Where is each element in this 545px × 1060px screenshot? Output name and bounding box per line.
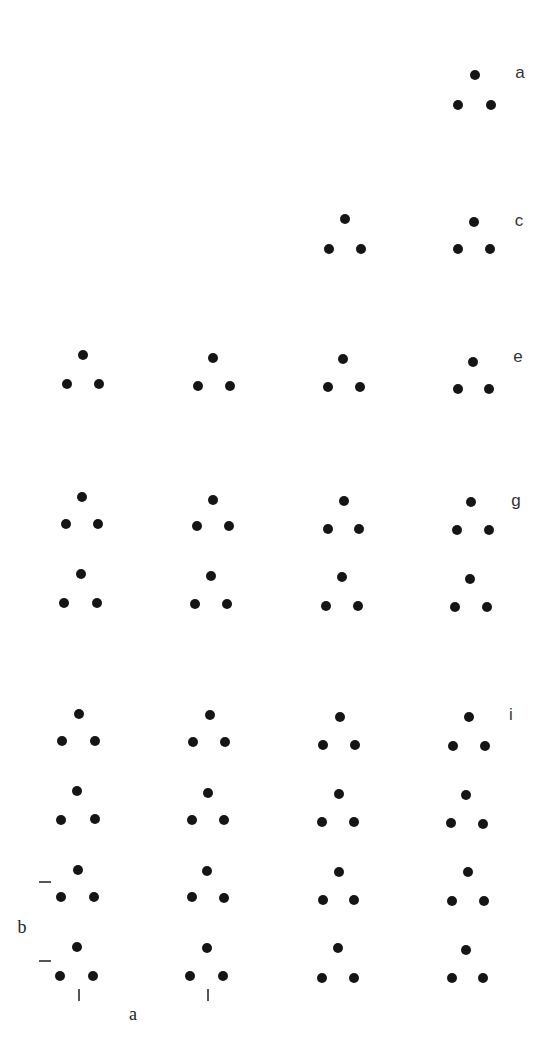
dot-marker: [337, 572, 347, 582]
dot-marker: [205, 710, 215, 720]
dot-marker: [465, 574, 475, 584]
dot-marker: [203, 788, 213, 798]
dot-marker: [187, 815, 197, 825]
dot-marker: [463, 867, 473, 877]
axis-label-b: b: [18, 918, 27, 936]
dot-marker: [354, 524, 364, 534]
vertical-tick-mark: [207, 989, 209, 1001]
dot-marker: [447, 973, 457, 983]
dot-marker: [355, 382, 365, 392]
dot-marker: [482, 602, 492, 612]
dot-marker: [323, 524, 333, 534]
dot-marker: [59, 598, 69, 608]
dot-marker: [335, 712, 345, 722]
dot-marker: [219, 815, 229, 825]
dot-marker: [469, 217, 479, 227]
dot-marker: [339, 496, 349, 506]
dot-marker: [452, 525, 462, 535]
dot-marker: [461, 790, 471, 800]
dot-marker: [61, 519, 71, 529]
dot-marker: [356, 244, 366, 254]
dot-marker: [350, 740, 360, 750]
dot-marker: [93, 519, 103, 529]
dot-marker: [338, 354, 348, 364]
dot-marker: [478, 819, 488, 829]
dot-marker: [334, 867, 344, 877]
dot-marker: [72, 786, 82, 796]
dot-marker: [317, 817, 327, 827]
dot-marker: [202, 866, 212, 876]
dot-marker: [479, 896, 489, 906]
dot-marker: [353, 601, 363, 611]
dot-marker: [349, 895, 359, 905]
dot-marker: [57, 736, 67, 746]
panel-label-c: c: [515, 212, 524, 229]
dot-marker: [318, 895, 328, 905]
dot-marker: [208, 353, 218, 363]
panel-label-i: i: [509, 706, 513, 723]
dot-marker: [453, 384, 463, 394]
panel-label-g: g: [511, 492, 520, 509]
dot-marker: [202, 943, 212, 953]
dot-marker: [450, 602, 460, 612]
dot-marker: [72, 942, 82, 952]
dot-marker: [55, 971, 65, 981]
panel-label-a: a: [515, 64, 524, 81]
dot-marker: [334, 789, 344, 799]
axis-label-a: a: [129, 1005, 137, 1023]
dot-marker: [464, 712, 474, 722]
dot-marker: [94, 379, 104, 389]
dot-marker: [90, 736, 100, 746]
dot-marker: [222, 599, 232, 609]
dot-marker: [56, 892, 66, 902]
dot-marker: [318, 740, 328, 750]
dot-marker: [470, 70, 480, 80]
dot-marker: [446, 818, 456, 828]
dot-marker: [461, 945, 471, 955]
dot-marker: [92, 598, 102, 608]
vertical-tick-mark: [78, 989, 80, 1001]
dot-marker: [206, 571, 216, 581]
dot-marker: [224, 521, 234, 531]
dot-marker: [218, 971, 228, 981]
dot-marker: [74, 709, 84, 719]
dot-marker: [486, 100, 496, 110]
dot-marker: [323, 382, 333, 392]
dot-marker: [208, 495, 218, 505]
dot-marker: [88, 971, 98, 981]
dot-marker: [484, 384, 494, 394]
dot-marker: [187, 892, 197, 902]
dot-marker: [62, 379, 72, 389]
dot-marker: [340, 214, 350, 224]
dot-marker: [56, 815, 66, 825]
dot-marker: [349, 817, 359, 827]
horizontal-dash-mark: [39, 881, 51, 883]
dot-marker: [478, 973, 488, 983]
dot-triangle-figure: acegi ba: [0, 0, 545, 1060]
dot-marker: [220, 737, 230, 747]
dot-marker: [188, 737, 198, 747]
dot-marker: [324, 244, 334, 254]
dot-marker: [76, 569, 86, 579]
panel-label-e: e: [513, 348, 522, 365]
dot-marker: [89, 892, 99, 902]
dot-marker: [468, 357, 478, 367]
dot-marker: [78, 350, 88, 360]
dot-marker: [90, 814, 100, 824]
horizontal-dash-mark: [39, 960, 51, 962]
dot-marker: [185, 971, 195, 981]
dot-marker: [447, 896, 457, 906]
dot-marker: [453, 244, 463, 254]
dot-marker: [484, 525, 494, 535]
dot-marker: [466, 497, 476, 507]
dot-marker: [333, 943, 343, 953]
dot-marker: [321, 601, 331, 611]
dot-marker: [480, 741, 490, 751]
dot-marker: [219, 893, 229, 903]
dot-marker: [190, 599, 200, 609]
dot-marker: [77, 492, 87, 502]
dot-marker: [448, 741, 458, 751]
dot-marker: [317, 973, 327, 983]
dot-marker: [225, 381, 235, 391]
dot-marker: [453, 100, 463, 110]
